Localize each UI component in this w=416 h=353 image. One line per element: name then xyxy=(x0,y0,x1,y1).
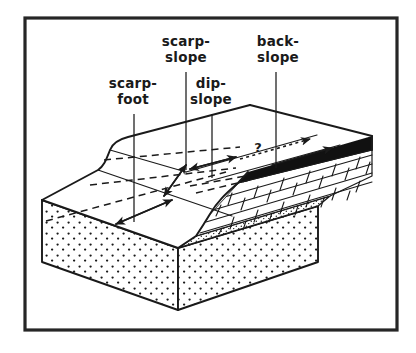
label-scarp-foot: scarp- foot xyxy=(109,75,157,107)
block-diagram-svg: ? scarp- slope back- slope scarp- foot d… xyxy=(0,0,416,353)
label-back-slope-line1: back- xyxy=(257,33,299,49)
label-scarp-foot-line2: foot xyxy=(117,91,149,107)
label-dip-slope-line1: dip- xyxy=(196,75,226,91)
label-scarp-slope-line1: scarp- xyxy=(162,33,210,49)
label-scarp-foot-line1: scarp- xyxy=(109,75,157,91)
label-scarp-slope-line2: slope xyxy=(165,49,207,65)
label-dip-slope: dip- slope xyxy=(190,75,232,107)
label-back-slope: back- slope xyxy=(257,33,299,65)
label-scarp-slope: scarp- slope xyxy=(162,33,210,65)
label-back-slope-line2: slope xyxy=(257,49,299,65)
figure-container: ? scarp- slope back- slope scarp- foot d… xyxy=(0,0,416,353)
question-mark-annotation: ? xyxy=(254,140,262,155)
label-dip-slope-line2: slope xyxy=(190,91,232,107)
